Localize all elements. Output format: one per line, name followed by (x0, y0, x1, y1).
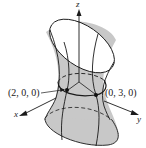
x-axis-arrowhead (19, 111, 28, 117)
point-0-3-0 (94, 93, 98, 97)
hyperboloid-figure: z x y (2, 0, 0) (0, 3, 0) (0, 0, 146, 148)
point-label-0-3-0: (0, 3, 0) (105, 88, 137, 98)
bottom-ellipse-front (45, 118, 118, 145)
point-2-0-0 (65, 88, 69, 92)
z-axis-label: z (76, 0, 80, 9)
x-axis-label: x (14, 110, 18, 119)
hyperboloid-drawing (0, 0, 146, 148)
point-label-2-0-0: (2, 0, 0) (8, 88, 40, 98)
z-axis-arrowhead (77, 9, 82, 16)
y-axis-label: y (137, 115, 141, 124)
